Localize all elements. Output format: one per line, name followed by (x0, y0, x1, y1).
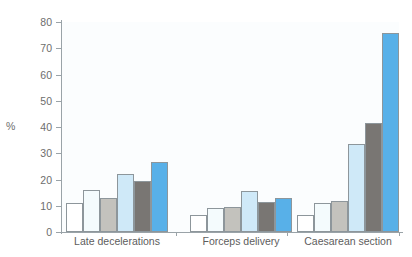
x-axis-line (61, 232, 403, 233)
x-axis-tick (176, 232, 177, 236)
y-axis-tick (56, 232, 61, 233)
bar (241, 191, 258, 232)
bar (365, 123, 382, 232)
bar (297, 215, 314, 232)
y-axis-tick (56, 22, 61, 23)
y-axis-tick (56, 180, 61, 181)
y-axis-tick (56, 48, 61, 49)
bar (224, 207, 241, 232)
bar (190, 215, 207, 232)
y-axis-tick-label: 80 (26, 17, 52, 28)
y-axis-tick-label-wrap: 20 (22, 175, 52, 187)
y-axis-tick-label-wrap: 30 (22, 148, 52, 160)
y-axis-tick (56, 127, 61, 128)
y-axis-tick-label-wrap: 50 (22, 96, 52, 108)
y-axis-tick-label: 50 (26, 96, 52, 107)
y-axis-line (61, 20, 62, 234)
bar (117, 174, 134, 232)
y-axis-tick (56, 75, 61, 76)
y-axis-tick-label: 40 (26, 122, 52, 133)
x-axis-label: Late decelerations (47, 236, 187, 247)
y-axis-tick (56, 206, 61, 207)
y-axis-tick (56, 101, 61, 102)
bar (331, 201, 348, 233)
bar (66, 203, 83, 232)
x-axis-label: Caesarean section (278, 236, 412, 247)
y-axis-tick-label-wrap: 80 (22, 17, 52, 29)
bar (258, 202, 275, 232)
x-axis-tick (399, 232, 400, 236)
bar (100, 198, 117, 232)
bar (151, 162, 168, 232)
y-axis-tick-label-wrap: 40 (22, 122, 52, 134)
bar (382, 33, 399, 233)
y-axis-tick-label: 30 (26, 148, 52, 159)
y-axis-tick-label-wrap: 60 (22, 70, 52, 82)
x-axis-tick (287, 232, 288, 236)
y-axis-tick-label: 20 (26, 175, 52, 186)
y-axis-title: % (6, 121, 15, 132)
bar (134, 181, 151, 232)
bar (275, 198, 292, 232)
bar (207, 208, 224, 232)
y-axis-tick (56, 153, 61, 154)
bar-chart: % 01020304050607080 Late decelerationsFo… (0, 0, 412, 257)
y-axis-tick-label: 10 (26, 201, 52, 212)
bar (348, 144, 365, 232)
bar (314, 203, 331, 232)
y-axis-tick-label-wrap: 70 (22, 43, 52, 55)
y-axis-tick-label-wrap: 10 (22, 201, 52, 213)
y-axis-tick-label: 70 (26, 43, 52, 54)
bar (83, 190, 100, 232)
y-axis-tick-label: 60 (26, 70, 52, 81)
